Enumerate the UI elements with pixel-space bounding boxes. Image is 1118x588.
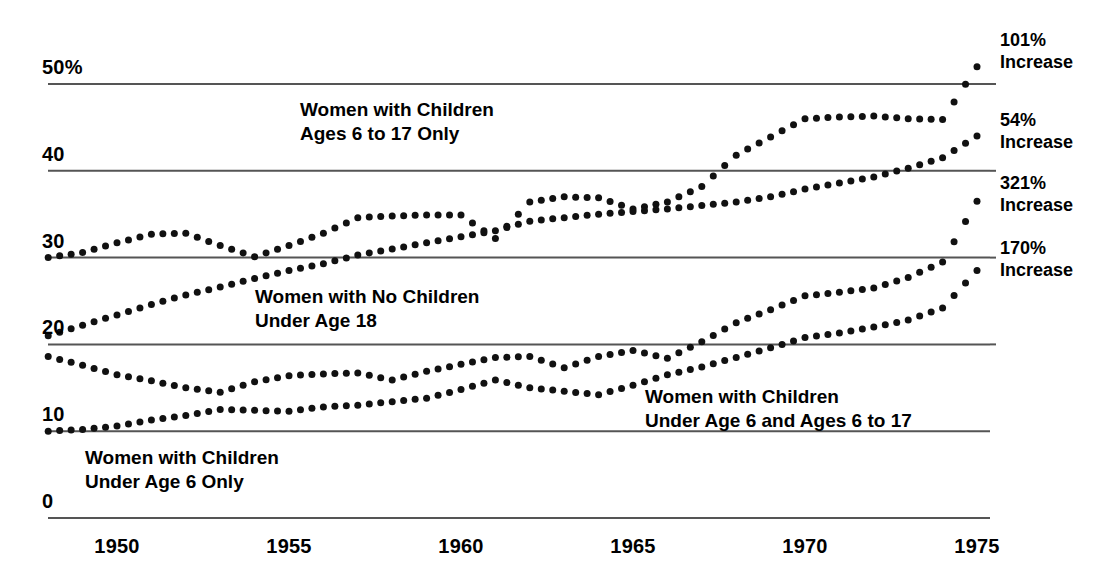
data-point	[882, 113, 889, 120]
data-point	[423, 239, 430, 246]
data-point	[389, 376, 396, 383]
x-axis-tick-1970: 1970	[782, 536, 827, 556]
data-point	[308, 262, 315, 269]
data-point	[641, 350, 648, 357]
data-point	[171, 382, 178, 389]
data-points-group	[45, 63, 981, 435]
increase-percent: 170%	[1000, 238, 1073, 260]
data-point	[91, 318, 98, 325]
data-point	[251, 253, 258, 260]
data-point	[549, 387, 556, 394]
data-point	[435, 212, 442, 219]
data-point	[652, 375, 659, 382]
data-point	[572, 213, 579, 220]
data-point	[308, 234, 315, 241]
data-point	[503, 354, 510, 361]
data-point	[366, 214, 373, 221]
data-point	[102, 243, 109, 250]
data-point	[400, 243, 407, 250]
data-point	[458, 233, 465, 240]
data-point	[68, 251, 75, 258]
increase-word: Increase	[1000, 260, 1073, 282]
data-point	[217, 389, 224, 396]
data-point	[561, 214, 568, 221]
data-point	[263, 249, 270, 256]
data-point	[194, 289, 201, 296]
data-point	[423, 368, 430, 375]
data-point	[733, 354, 740, 361]
data-point	[698, 183, 705, 190]
data-point	[125, 236, 132, 243]
increase-word: Increase	[1000, 52, 1073, 74]
y-axis-tick-40: 40	[42, 144, 65, 164]
data-point	[974, 133, 981, 140]
data-point	[217, 284, 224, 291]
data-point	[630, 208, 637, 215]
data-point	[308, 405, 315, 412]
data-point	[377, 247, 384, 254]
increase-percent: 321%	[1000, 173, 1073, 195]
data-point	[240, 382, 247, 389]
data-point	[756, 348, 763, 355]
data-point	[572, 361, 579, 368]
data-point	[240, 249, 247, 256]
data-point	[802, 186, 809, 193]
data-point	[114, 371, 121, 378]
data-point	[458, 386, 465, 393]
data-point	[675, 193, 682, 200]
data-point	[412, 241, 419, 248]
data-point	[618, 349, 625, 356]
data-point	[538, 357, 545, 364]
data-point	[572, 389, 579, 396]
data-point	[286, 372, 293, 379]
data-point	[136, 375, 143, 382]
data-point	[916, 116, 923, 123]
data-point	[469, 359, 476, 366]
data-point	[687, 366, 694, 373]
x-axis-tick-1965: 1965	[610, 536, 655, 556]
data-point	[480, 356, 487, 363]
data-point	[652, 206, 659, 213]
data-point	[320, 403, 327, 410]
data-point	[561, 364, 568, 371]
data-point	[905, 317, 912, 324]
y-axis-tick-50pct: 50%	[42, 57, 83, 77]
data-point	[607, 210, 614, 217]
series-label-line2: Ages 6 to 17 Only	[300, 122, 494, 146]
data-point	[56, 252, 63, 259]
data-point	[882, 170, 889, 177]
data-point	[664, 371, 671, 378]
data-point	[102, 424, 109, 431]
data-point	[687, 344, 694, 351]
data-point	[159, 230, 166, 237]
data-point	[435, 237, 442, 244]
data-point	[469, 231, 476, 238]
data-point	[675, 369, 682, 376]
data-point	[91, 365, 98, 372]
data-point	[939, 116, 946, 123]
chart-plot-area	[0, 0, 1118, 588]
data-point	[182, 384, 189, 391]
data-point	[824, 290, 831, 297]
data-point	[297, 406, 304, 413]
data-point	[744, 315, 751, 322]
data-point	[148, 301, 155, 308]
data-point	[125, 373, 132, 380]
data-point	[125, 308, 132, 315]
data-point	[905, 165, 912, 172]
data-point	[893, 278, 900, 285]
data-point	[79, 426, 86, 433]
data-point	[515, 353, 522, 360]
data-point	[240, 407, 247, 414]
data-point	[400, 397, 407, 404]
data-point	[974, 198, 981, 205]
data-point	[469, 383, 476, 390]
data-point	[274, 374, 281, 381]
increase-percent: 101%	[1000, 30, 1073, 52]
data-point	[274, 407, 281, 414]
data-point	[824, 181, 831, 188]
data-point	[595, 353, 602, 360]
data-point	[847, 328, 854, 335]
data-point	[331, 257, 338, 264]
series-label-line2: Under Age 18	[255, 309, 479, 333]
